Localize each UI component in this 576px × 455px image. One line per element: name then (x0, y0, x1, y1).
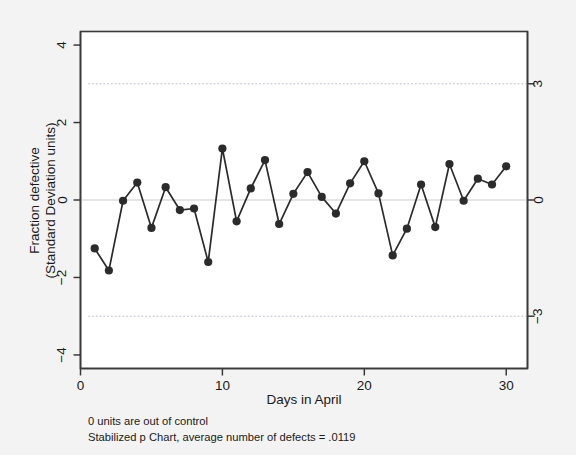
y-axis-right: −303 (528, 32, 546, 369)
data-point-marker (346, 179, 354, 187)
axis-tick-label: 0 (77, 378, 85, 393)
data-point-marker (417, 180, 425, 188)
x-axis-title: Days in April (80, 392, 528, 407)
x-axis: 0102030 (77, 369, 528, 393)
data-point-marker (218, 144, 226, 152)
footnote-line-2: Stabilized p Chart, average number of de… (88, 430, 356, 446)
data-point-marker (162, 183, 170, 191)
data-point-marker (190, 204, 198, 212)
data-point-marker (303, 168, 311, 176)
axis-tick-label: 10 (215, 378, 230, 393)
data-point-marker (460, 197, 468, 205)
stabilized-p-chart: −4−2024 −303 0102030 Fraction defective … (0, 0, 576, 455)
data-point-marker (360, 157, 368, 165)
data-point-marker (105, 266, 113, 274)
data-point-marker (389, 251, 397, 259)
data-point-marker (431, 223, 439, 231)
data-point-marker (332, 209, 340, 217)
axis-tick-label: 3 (531, 80, 546, 88)
axis-tick-label: 30 (499, 378, 514, 393)
axis-tick-label: −3 (531, 309, 546, 324)
data-point-marker (204, 258, 212, 266)
data-point-marker (147, 224, 155, 232)
chart-footnote: 0 units are out of control Stabilized p … (88, 414, 356, 446)
data-point-marker (488, 180, 496, 188)
axis-tick-label: −2 (55, 270, 70, 285)
axis-tick-label: 2 (55, 119, 70, 127)
data-point-marker (176, 206, 184, 214)
axis-tick-label: 0 (55, 196, 70, 204)
chart-canvas: −4−2024 −303 0102030 (0, 0, 576, 455)
data-point-marker (275, 220, 283, 228)
data-point-marker (233, 217, 241, 225)
data-point-marker (289, 190, 297, 198)
figure-container: −4−2024 −303 0102030 Fraction defective … (0, 0, 576, 455)
data-point-marker (261, 156, 269, 164)
data-point-marker (502, 162, 510, 170)
axis-tick-label: 20 (357, 378, 372, 393)
data-point-marker (119, 197, 127, 205)
data-point-marker (91, 244, 99, 252)
footnote-line-1: 0 units are out of control (88, 414, 356, 430)
data-point-marker (445, 160, 453, 168)
data-point-marker (247, 184, 255, 192)
data-point-marker (374, 189, 382, 197)
axis-tick-label: −4 (55, 347, 70, 363)
axis-tick-label: 4 (55, 41, 70, 49)
data-point-marker (403, 225, 411, 233)
data-point-marker (133, 178, 141, 186)
data-point-marker (474, 175, 482, 183)
y-axis-left: −4−2024 (55, 32, 81, 369)
axis-tick-label: 0 (531, 196, 546, 204)
data-point-marker (318, 193, 326, 201)
